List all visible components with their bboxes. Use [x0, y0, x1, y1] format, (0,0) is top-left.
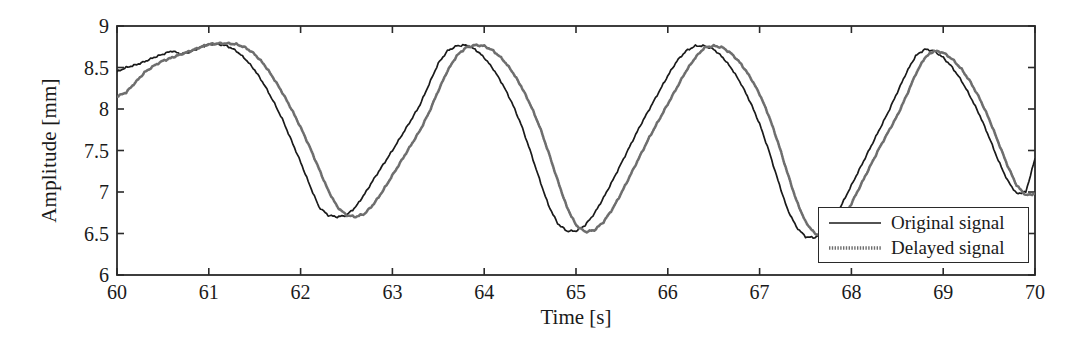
y-tick-label: 7	[55, 181, 109, 204]
x-tick-label: 69	[933, 281, 953, 304]
y-tick-label: 8	[55, 98, 109, 121]
x-tick-label: 61	[199, 281, 219, 304]
legend-label-original: Original signal	[891, 212, 1004, 234]
x-tick-label: 63	[382, 281, 402, 304]
x-axis-label: Time [s]	[117, 305, 1035, 330]
chart-figure: Amplitude [mm] Time [s] 6061626364656667…	[0, 0, 1089, 345]
x-tick-label: 62	[291, 281, 311, 304]
legend-item-original: Original signal	[819, 210, 1028, 236]
x-tick-label: 67	[750, 281, 770, 304]
legend: Original signal Delayed signal	[818, 207, 1029, 263]
x-tick-label: 66	[658, 281, 678, 304]
legend-label-delayed: Delayed signal	[891, 237, 1004, 259]
x-tick-label: 64	[474, 281, 494, 304]
x-tick-label: 70	[1025, 281, 1045, 304]
x-tick-label: 65	[566, 281, 586, 304]
y-tick-label: 6	[55, 264, 109, 287]
y-tick-label: 7.5	[55, 139, 109, 162]
legend-swatch-dotted-line-icon	[827, 242, 883, 254]
plot-area	[0, 0, 1089, 345]
x-tick-label: 68	[841, 281, 861, 304]
y-tick-label: 9	[55, 15, 109, 38]
y-tick-label: 8.5	[55, 56, 109, 79]
x-tick-label: 60	[107, 281, 127, 304]
legend-swatch-solid-line-icon	[827, 217, 883, 229]
y-tick-label: 6.5	[55, 222, 109, 245]
legend-item-delayed: Delayed signal	[819, 235, 1028, 261]
